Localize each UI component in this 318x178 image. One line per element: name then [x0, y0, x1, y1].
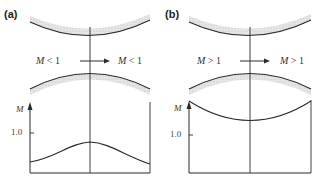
panel-label-b: (b) — [165, 8, 179, 20]
y-axis-label-a: M — [16, 104, 24, 114]
panel-b — [187, 14, 312, 173]
y-axis-label-b: M — [174, 103, 182, 113]
flow-arrowhead — [264, 59, 270, 64]
flow-label-outlet-b: M > 1 — [280, 55, 304, 66]
flow-arrowhead — [104, 59, 110, 64]
y-tick-label-b: 1.0 — [170, 129, 181, 139]
diagram-canvas — [0, 0, 318, 178]
y-tick-label-a: 1.0 — [11, 127, 22, 137]
y-axis-arrowhead — [28, 102, 33, 110]
panel-label-a: (a) — [4, 8, 17, 20]
flow-label-outlet-a: M < 1 — [118, 55, 142, 66]
panel-a — [28, 14, 151, 173]
flow-label-inlet-b: M > 1 — [197, 55, 221, 66]
flow-label-inlet-a: M < 1 — [36, 55, 60, 66]
converging-diverging-nozzle-figure: (a) (b) M < 1 M < 1 M > 1 M > 1 M 1.0 M … — [0, 0, 318, 178]
